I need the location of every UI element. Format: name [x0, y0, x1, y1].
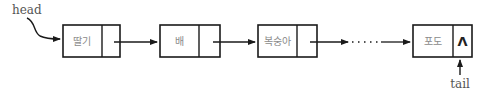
node-box: [160, 25, 220, 57]
list-node-2: 배: [160, 25, 220, 57]
null-pointer-icon: Λ: [457, 34, 467, 49]
list-node-3: 복숭아: [258, 25, 317, 57]
list-node-1: 딸기: [63, 25, 120, 57]
node-data: 딸기: [73, 36, 91, 47]
head-label: head: [12, 3, 42, 17]
node-data: 포도: [424, 36, 442, 47]
node-data: 복숭아: [264, 36, 291, 47]
head-pointer-arrow: [27, 18, 60, 39]
node-box: [63, 25, 120, 57]
linked-list-diagram: head 딸기 배 복숭아 포도 Λ tail: [0, 0, 486, 92]
tail-label: tail: [450, 77, 470, 91]
node-data: 배: [175, 36, 184, 47]
list-node-4: 포도 Λ: [413, 25, 472, 57]
